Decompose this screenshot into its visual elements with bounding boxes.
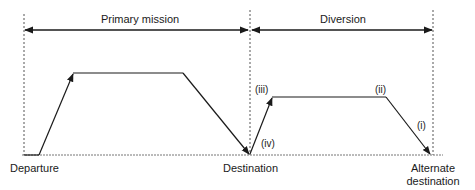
primary-climb-segment <box>39 74 73 155</box>
segment-marker-ii: (ii) <box>375 84 386 96</box>
segment-marker-i: (i) <box>417 120 426 132</box>
segment-marker-iv: (iv) <box>261 138 275 150</box>
segment-marker-iii: (iii) <box>255 84 268 96</box>
alternate-destination-label-line2: destination <box>406 175 459 187</box>
destination-label: Destination <box>223 162 278 174</box>
diversion-label: Diversion <box>320 13 366 25</box>
alternate-destination-label-line1: Alternate <box>411 162 455 174</box>
departure-label: Departure <box>10 162 59 174</box>
primary-descent-segment <box>183 73 249 154</box>
primary-mission-label: Primary mission <box>101 13 179 25</box>
